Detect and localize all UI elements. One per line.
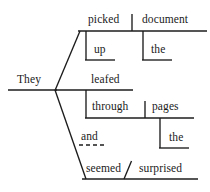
line-complement-slant	[124, 161, 132, 179]
word-verb-seemed: seemed	[86, 162, 121, 174]
word-particle-up: up	[94, 43, 106, 55]
word-object-document: document	[142, 13, 188, 25]
word-conjunction-and: and	[81, 130, 98, 142]
word-subject: They	[17, 73, 41, 85]
word-complement-surprised: surprised	[139, 162, 182, 174]
word-determiner-the-document: the	[151, 43, 165, 55]
word-verb-leafed: leafed	[91, 73, 120, 85]
sentence-diagram: They picked document up the leafed throu…	[0, 0, 210, 192]
word-determiner-the-pages: the	[169, 131, 183, 143]
word-verb-picked: picked	[88, 13, 119, 25]
word-object-pages: pages	[152, 100, 179, 112]
word-preposition-through: through	[92, 100, 128, 112]
line-branch-up-diagonal	[55, 31, 80, 91]
